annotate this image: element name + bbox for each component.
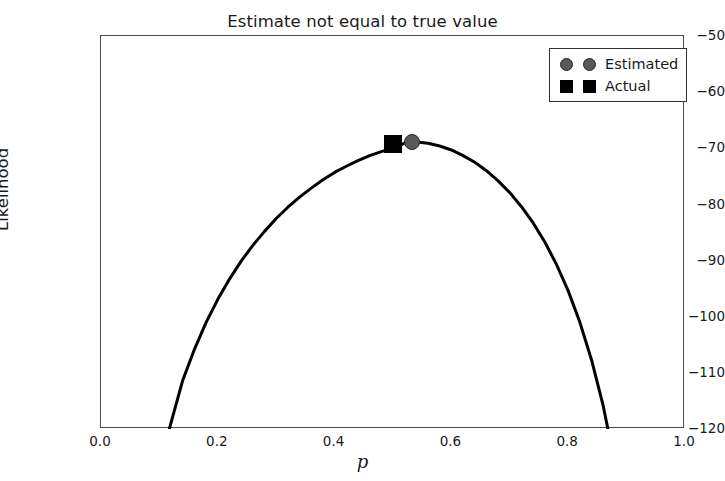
- square-marker-icon: [583, 80, 596, 93]
- x-axis-label: p: [0, 451, 725, 472]
- circle-marker-icon: [560, 58, 573, 71]
- y-axis-label: Likelihood: [0, 148, 12, 231]
- x-tick-label-1: 0.2: [206, 433, 227, 449]
- legend-label-estimated: Estimated: [601, 56, 678, 72]
- legend-item-actual[interactable]: Actual: [555, 75, 678, 97]
- figure-canvas: Estimate not equal to true value Likelih…: [0, 0, 725, 481]
- chart-title: Estimate not equal to true value: [0, 12, 725, 31]
- x-tick-label-3: 0.6: [440, 433, 461, 449]
- legend-item-estimated[interactable]: Estimated: [555, 53, 678, 75]
- square-marker-icon: [560, 80, 573, 93]
- legend-markers-actual: [555, 80, 601, 93]
- x-tick-label-5: 1.0: [673, 433, 694, 449]
- legend-label-actual: Actual: [601, 78, 650, 94]
- legend-box: Estimated Actual: [549, 48, 687, 102]
- circle-marker-icon: [583, 58, 596, 71]
- data-marker-estimated[interactable]: [404, 134, 420, 150]
- x-tick-label-0: 0.0: [89, 433, 110, 449]
- x-tick-label-4: 0.8: [556, 433, 577, 449]
- data-marker-actual[interactable]: [384, 135, 402, 153]
- x-tick-label-2: 0.4: [323, 433, 344, 449]
- legend-markers-estimated: [555, 58, 601, 71]
